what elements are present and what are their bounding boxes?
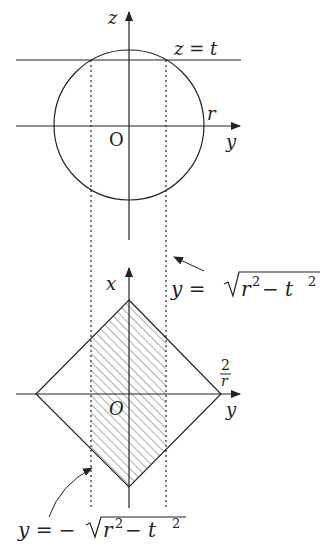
vertex-label-num: 2 bbox=[221, 357, 230, 373]
upper-bound-annotation: y = r 2 − t 2 bbox=[170, 257, 320, 301]
svg-text:r: r bbox=[241, 277, 252, 301]
upper-eq-lhs: y = bbox=[170, 277, 205, 301]
radius-label: r bbox=[207, 103, 217, 124]
y-axis-label-bottom: y bbox=[225, 399, 237, 420]
svg-text:2: 2 bbox=[172, 516, 180, 531]
x-axis-label: x bbox=[106, 273, 116, 294]
z-axis-label: z bbox=[107, 7, 118, 28]
y-axis-label-top: y bbox=[225, 131, 237, 152]
top-diagram: z y O r z = t bbox=[16, 7, 241, 240]
origin-label-top: O bbox=[109, 129, 124, 150]
diagram-canvas: z y O r z = t x y O 2 r y = r 2 − t 2 y … bbox=[0, 0, 324, 556]
svg-text:2: 2 bbox=[115, 516, 123, 531]
svg-text:2: 2 bbox=[252, 274, 260, 289]
lower-bound-annotation: y = − r 2 − t 2 bbox=[17, 468, 186, 542]
bottom-diagram: x y O 2 r bbox=[16, 268, 240, 508]
svg-text:− t: − t bbox=[262, 277, 294, 301]
origin-label-bottom: O bbox=[109, 398, 124, 419]
lower-eq-lhs: y = − bbox=[17, 518, 76, 542]
plane-label: z = t bbox=[173, 38, 218, 59]
svg-text:− t: − t bbox=[125, 518, 157, 542]
svg-text:2: 2 bbox=[308, 274, 316, 289]
svg-text:r: r bbox=[103, 518, 114, 542]
vertex-label-den: r bbox=[221, 373, 229, 389]
